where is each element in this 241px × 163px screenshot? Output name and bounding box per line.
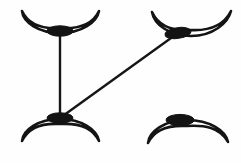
diagram-canvas [0, 0, 241, 163]
node-ellipse-top-left [47, 26, 73, 36]
node-ellipse-bottom-right [166, 114, 194, 125]
node-ellipse-bottom-left [47, 113, 73, 123]
crescent-network-diagram [0, 0, 241, 163]
